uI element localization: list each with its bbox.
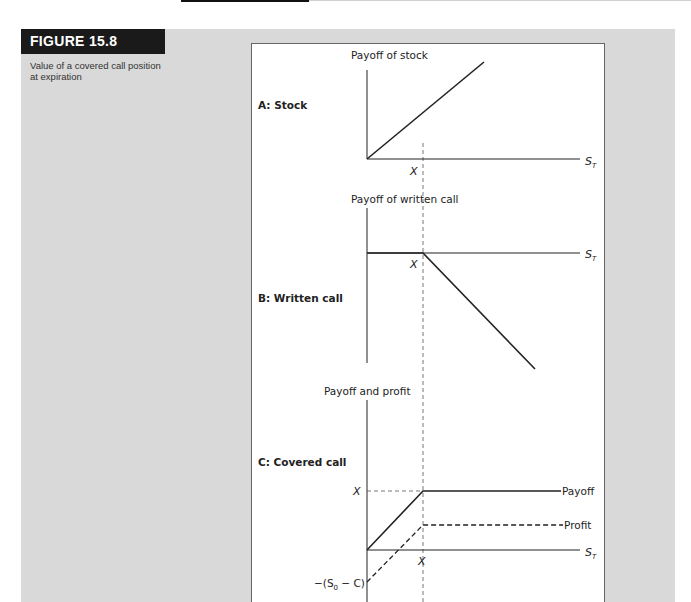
covered-call-chart: Payoff of stock A: Stock X ST Payoff of … [0, 0, 691, 602]
panelC-title: C: Covered call [258, 456, 346, 468]
payoff-legend-label: Payoff [562, 485, 595, 497]
panelC-y-label: Payoff and profit [324, 385, 411, 397]
panelC-x-mark: X [417, 555, 426, 568]
panelC-y-x-mark: X [352, 485, 361, 498]
panelC-profit-line [367, 525, 563, 582]
neg-cost-label: −(S0 − C) [314, 577, 365, 592]
panelB-written-call-line [367, 253, 535, 369]
panelA-x-mark: X [409, 165, 418, 178]
panelC-payoff-line [367, 491, 561, 550]
panelB-title: B: Written call [258, 292, 343, 304]
panelB-x-mark: X [409, 258, 418, 271]
panelA-y-label: Payoff of stock [351, 49, 429, 61]
panelC-st-label: ST [585, 546, 597, 561]
profit-legend-label: Profit [564, 519, 591, 531]
panelB-st-label: ST [585, 248, 597, 263]
panelB-y-label: Payoff of written call [351, 193, 459, 205]
panelA-title: A: Stock [258, 99, 308, 111]
panelA-stock-line [367, 62, 484, 159]
panelA-st-label: ST [585, 155, 597, 170]
